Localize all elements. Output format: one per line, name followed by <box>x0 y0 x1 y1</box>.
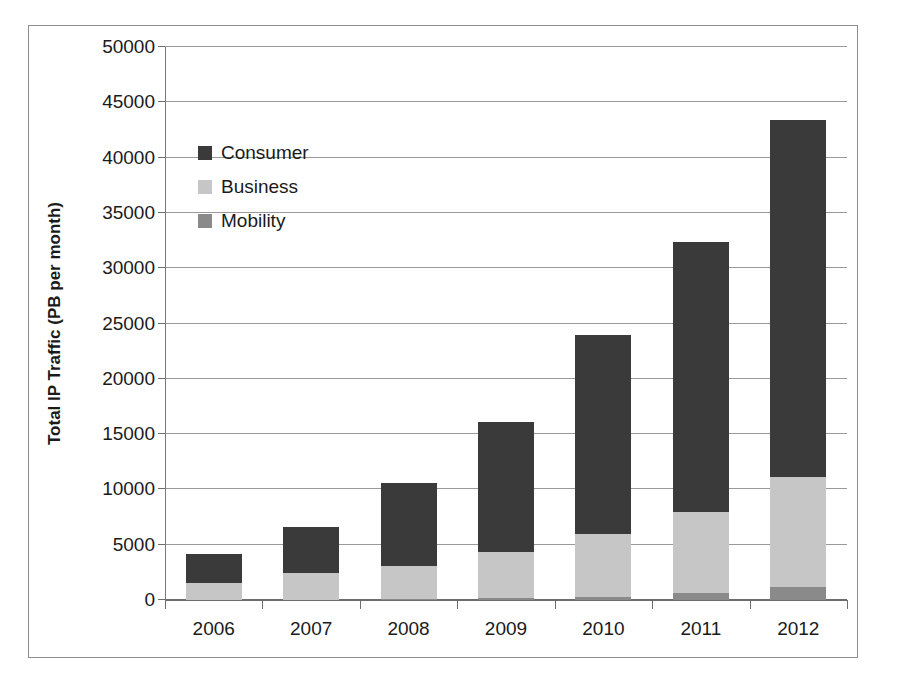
y-axis-tick-labels: 0500010000150002000025000300003500040000… <box>60 47 155 600</box>
bar-segment-consumer[interactable] <box>283 527 339 573</box>
y-tick-mark <box>158 101 165 102</box>
y-tick-label: 45000 <box>65 91 155 113</box>
x-tick-mark <box>165 601 166 609</box>
legend-swatch-icon <box>198 214 212 228</box>
y-tick-label: 35000 <box>65 202 155 224</box>
y-tick-mark <box>158 488 165 489</box>
bar-stack[interactable] <box>478 47 534 600</box>
y-tick-mark <box>158 378 165 379</box>
y-tick-label: 30000 <box>65 257 155 279</box>
y-tick-mark <box>158 212 165 213</box>
y-tick-mark <box>158 544 165 545</box>
bar-stack[interactable] <box>381 47 437 600</box>
y-tick-label: 20000 <box>65 368 155 390</box>
y-axis-line <box>165 47 166 601</box>
legend-item-label: Consumer <box>221 142 309 164</box>
bar-group[interactable] <box>457 47 554 600</box>
bar-segment-business[interactable] <box>575 534 631 597</box>
bar-segment-consumer[interactable] <box>186 554 242 584</box>
bar-group[interactable] <box>750 47 847 600</box>
bar-segment-business[interactable] <box>186 583 242 599</box>
y-tick-label: 50000 <box>65 36 155 58</box>
x-tick-mark <box>555 601 556 609</box>
x-axis-line <box>165 600 848 601</box>
bar-segment-mobility[interactable] <box>770 587 826 600</box>
bar-group[interactable] <box>360 47 457 600</box>
y-tick-mark <box>158 323 165 324</box>
bar-segment-consumer[interactable] <box>575 335 631 534</box>
chart-legend: ConsumerBusinessMobility <box>198 136 309 238</box>
bar-group[interactable] <box>262 47 359 600</box>
bar-segment-consumer[interactable] <box>381 483 437 566</box>
legend-item[interactable]: Business <box>198 170 309 204</box>
y-tick-label: 25000 <box>65 313 155 335</box>
y-tick-label: 5000 <box>65 534 155 556</box>
bar-segment-consumer[interactable] <box>478 422 534 553</box>
bar-stack[interactable] <box>283 47 339 600</box>
y-tick-label: 0 <box>65 589 155 611</box>
y-tick-label: 40000 <box>65 147 155 169</box>
y-tick-label: 15000 <box>65 423 155 445</box>
x-tick-mark <box>750 601 751 609</box>
y-tick-mark <box>158 157 165 158</box>
legend-swatch-icon <box>198 146 212 160</box>
y-tick-label: 10000 <box>65 478 155 500</box>
legend-item-label: Mobility <box>221 210 285 232</box>
bar-segment-consumer[interactable] <box>673 242 729 512</box>
bar-segment-business[interactable] <box>673 512 729 594</box>
plot-area <box>165 47 847 600</box>
legend-item-label: Business <box>221 176 298 198</box>
legend-swatch-icon <box>198 180 212 194</box>
x-tick-mark <box>262 601 263 609</box>
x-tick-mark <box>360 601 361 609</box>
bar-segment-business[interactable] <box>478 552 534 597</box>
bar-stack[interactable] <box>186 47 242 600</box>
x-tick-mark <box>652 601 653 609</box>
bar-segment-business[interactable] <box>770 477 826 586</box>
y-tick-mark <box>158 267 165 268</box>
bar-segment-business[interactable] <box>381 566 437 599</box>
bar-segment-mobility[interactable] <box>673 593 729 600</box>
bar-stack[interactable] <box>673 47 729 600</box>
bar-segment-business[interactable] <box>283 573 339 599</box>
y-tick-mark <box>158 46 165 47</box>
bar-segment-consumer[interactable] <box>770 120 826 477</box>
bar-group[interactable] <box>652 47 749 600</box>
bar-group[interactable] <box>555 47 652 600</box>
y-tick-mark <box>158 433 165 434</box>
bar-stack[interactable] <box>770 47 826 600</box>
x-tick-mark <box>457 601 458 609</box>
bar-group[interactable] <box>165 47 262 600</box>
legend-item[interactable]: Mobility <box>198 204 309 238</box>
y-tick-mark <box>158 599 165 600</box>
legend-item[interactable]: Consumer <box>198 136 309 170</box>
bar-stack[interactable] <box>575 47 631 600</box>
x-tick-label: 2012 <box>738 618 858 640</box>
x-tick-mark <box>847 601 848 609</box>
